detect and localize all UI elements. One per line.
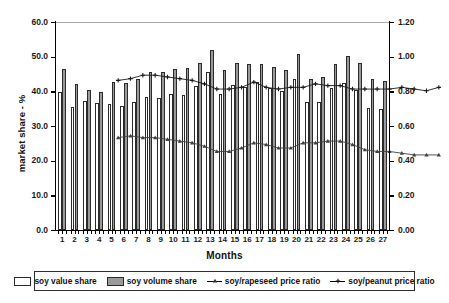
x-tick-mark: [140, 230, 141, 234]
x-tick-mark: [235, 230, 236, 234]
marker-plus: [363, 87, 367, 91]
bar-soy-volume-share: [87, 90, 91, 230]
x-tick-mark: [186, 230, 187, 234]
x-tick-mark: [91, 230, 92, 234]
y2-tick-mark: [389, 22, 394, 23]
marker-plus: [326, 83, 330, 87]
marker-plus: [190, 78, 194, 82]
marker-plus: [289, 85, 293, 89]
x-tick-mark: [182, 230, 183, 234]
y2-tick-label: 0.60: [398, 122, 415, 131]
x-tick-mark: [284, 230, 285, 234]
x-tick-mark: [313, 230, 314, 234]
x-tick-mark: [62, 230, 63, 234]
y-tick-mark: [51, 230, 56, 231]
marker-plus: [141, 73, 145, 77]
chart-figure: market share - % Months 0.010.020.030.04…: [0, 0, 449, 303]
axis-top: [55, 22, 391, 23]
marker-triangle: [252, 141, 256, 145]
marker-plus: [239, 85, 243, 89]
x-tick-mark: [99, 230, 100, 234]
x-tick-mark: [87, 230, 88, 234]
marker-plus: [153, 73, 157, 77]
x-tick-mark: [136, 230, 137, 234]
x-tick-mark: [371, 230, 372, 234]
legend-label: soy/rapeseed price ratio: [225, 276, 320, 286]
marker-triangle: [128, 134, 132, 138]
y2-tick-mark: [389, 230, 394, 231]
x-tick-mark: [280, 230, 281, 234]
x-tick-mark: [247, 230, 248, 234]
x-tick-mark: [95, 230, 96, 234]
x-tick-mark: [152, 230, 153, 234]
marker-plus: [437, 85, 441, 89]
legend-item[interactable]: soy value share: [14, 276, 96, 286]
x-tick-mark: [305, 230, 306, 234]
x-tick-mark: [354, 230, 355, 234]
y2-tick-label: 0.00: [398, 226, 415, 235]
x-tick-mark: [214, 230, 215, 234]
x-tick-mark: [342, 230, 343, 234]
x-tick-mark: [243, 230, 244, 234]
x-tick-mark: [260, 230, 261, 234]
y2-tick-label: 0.20: [398, 191, 415, 200]
y-tick-mark: [51, 161, 56, 162]
marker-plus: [128, 76, 132, 80]
legend-item[interactable]: soy/rapeseed price ratio: [207, 276, 320, 286]
x-tick-mark: [317, 230, 318, 234]
x-tick-mark: [210, 230, 211, 234]
bar-soy-value-share: [71, 107, 75, 230]
y2-tick-mark: [389, 195, 394, 196]
marker-plus: [350, 87, 354, 91]
x-tick-mark: [330, 230, 331, 234]
x-tick-mark: [66, 230, 67, 234]
x-tick-mark: [387, 230, 388, 234]
x-tick-mark: [124, 230, 125, 234]
x-tick-mark: [189, 230, 190, 234]
x-tick-mark: [350, 230, 351, 234]
legend-item[interactable]: soy/peanut price ratio: [330, 276, 434, 286]
x-tick-mark: [58, 230, 59, 234]
x-tick-mark: [223, 230, 224, 234]
x-tick-mark: [263, 230, 264, 234]
x-tick-label: 27: [373, 236, 393, 244]
marker-plus: [252, 80, 256, 84]
x-tick-mark: [293, 230, 294, 234]
x-tick-mark: [334, 230, 335, 234]
x-tick-mark: [383, 230, 384, 234]
y2-tick-label: 0.40: [398, 156, 415, 165]
y-tick-label: 20.0: [8, 156, 48, 165]
y-tick-label: 30.0: [8, 122, 48, 131]
y2-tick-mark: [389, 57, 394, 58]
x-tick-mark: [194, 230, 195, 234]
legend-label: soy value share: [34, 276, 96, 286]
x-tick-mark: [145, 230, 146, 234]
legend-plus-marker-icon: [330, 277, 345, 285]
x-tick-mark: [173, 230, 174, 234]
y2-tick-mark: [389, 161, 394, 162]
x-tick-mark: [169, 230, 170, 234]
x-tick-mark: [132, 230, 133, 234]
marker-plus: [215, 87, 219, 91]
y-tick-label: 40.0: [8, 87, 48, 96]
x-tick-mark: [115, 230, 116, 234]
x-tick-mark: [157, 230, 158, 234]
x-tick-mark: [379, 230, 380, 234]
x-tick-mark: [120, 230, 121, 234]
x-tick-mark: [112, 230, 113, 234]
x-tick-mark: [251, 230, 252, 234]
x-tick-mark: [268, 230, 269, 234]
plot-area: [56, 22, 389, 230]
x-tick-mark: [300, 230, 301, 234]
legend-item[interactable]: soy volume share: [107, 276, 197, 286]
x-tick-mark: [256, 230, 257, 234]
bar-soy-volume-share: [75, 84, 79, 230]
marker-plus: [301, 85, 305, 89]
y-tick-label: 0.0: [8, 226, 48, 235]
x-tick-mark: [346, 230, 347, 234]
x-tick-mark: [161, 230, 162, 234]
x-tick-mark: [362, 230, 363, 234]
x-tick-mark: [75, 230, 76, 234]
x-tick-mark: [165, 230, 166, 234]
y2-tick-label: 1.00: [398, 52, 415, 61]
